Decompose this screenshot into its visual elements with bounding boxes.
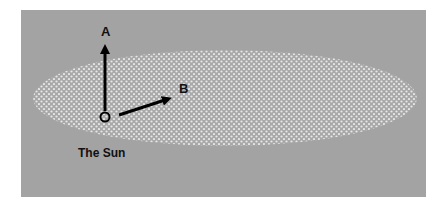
- diagram-canvas: [0, 0, 445, 206]
- arrow-a-label: A: [101, 25, 110, 38]
- orbital-plane-ellipse: [33, 50, 417, 146]
- sun-caption: The Sun: [78, 147, 125, 159]
- arrow-b-label: B: [179, 82, 188, 95]
